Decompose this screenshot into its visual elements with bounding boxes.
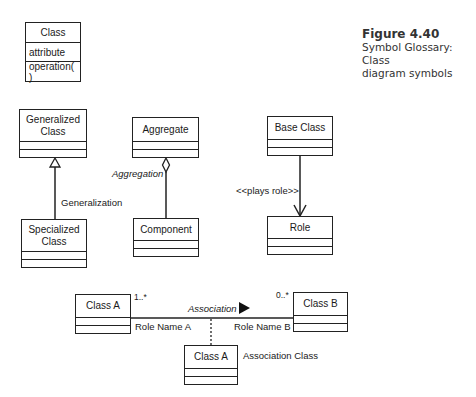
operation-compartment — [268, 246, 332, 254]
attribute-compartment — [294, 315, 347, 323]
operation-compartment — [134, 248, 198, 256]
class-name: Class — [26, 23, 80, 42]
base-class-name: Base Class — [268, 117, 332, 139]
multiplicity-a: 1..* — [134, 292, 147, 302]
attribute-compartment — [268, 139, 332, 147]
operation-compartment — [22, 259, 86, 267]
class-a-name: Class A — [76, 295, 130, 317]
class-operation: operation( ) — [26, 61, 80, 81]
role-box: Role — [267, 216, 333, 255]
attribute-compartment — [20, 141, 86, 149]
association-direction-icon — [239, 302, 250, 314]
association-class-name: Class A — [185, 346, 237, 368]
attribute-compartment — [268, 238, 332, 246]
class-symbol-box: Class attribute operation( ) — [25, 22, 81, 82]
aggregation-label: Aggregation — [112, 168, 163, 179]
class-attribute: attribute — [26, 42, 80, 61]
attribute-compartment — [76, 317, 130, 325]
figure-subtitle-line2: diagram symbols — [362, 67, 476, 80]
component-box: Component — [133, 218, 199, 257]
plays-role-label: <<plays role>> — [236, 185, 299, 196]
specialized-class-box: Specialized Class — [21, 219, 87, 268]
aggregate-name: Aggregate — [133, 118, 198, 141]
figure-caption: Figure 4.40 Symbol Glossary: Class diagr… — [362, 27, 476, 80]
association-label: Association — [188, 303, 237, 314]
aggregate-box: Aggregate — [132, 117, 199, 158]
attribute-compartment — [22, 251, 86, 259]
aggregation-diamond-icon — [163, 158, 170, 172]
attribute-compartment — [185, 368, 237, 376]
operation-compartment — [76, 325, 130, 333]
association-class-label: Association Class — [243, 350, 318, 361]
generalization-triangle-icon — [50, 158, 60, 167]
generalized-class-box: Generalized Class — [19, 109, 87, 158]
association-class-a-box: Class A — [75, 294, 131, 334]
figure-subtitle-line1: Symbol Glossary: Class — [362, 41, 476, 67]
association-class-box: Class A — [184, 345, 238, 385]
role-name-a: Role Name A — [135, 321, 191, 332]
generalized-class-name: Generalized Class — [20, 110, 86, 141]
operation-compartment — [268, 147, 332, 155]
attribute-compartment — [134, 240, 198, 248]
operation-compartment — [185, 376, 237, 384]
multiplicity-b: 0..* — [276, 290, 289, 300]
attribute-compartment — [133, 141, 198, 149]
operation-compartment — [133, 149, 198, 157]
role-name: Role — [268, 217, 332, 238]
operation-compartment — [294, 323, 347, 331]
role-name-b: Role Name B — [234, 321, 291, 332]
operation-compartment — [20, 149, 86, 157]
component-name: Component — [134, 219, 198, 240]
figure-title: Figure 4.40 — [362, 27, 476, 41]
generalization-label: Generalization — [61, 197, 122, 208]
association-class-b-box: Class B — [293, 292, 348, 332]
base-class-box: Base Class — [267, 116, 333, 156]
specialized-class-name: Specialized Class — [22, 220, 86, 251]
class-b-name: Class B — [294, 293, 347, 315]
